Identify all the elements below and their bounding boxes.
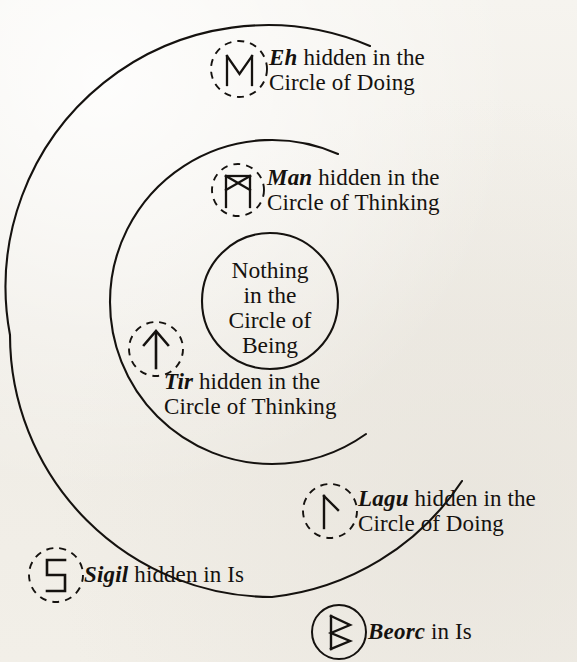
inner-circle-line-1: Nothing bbox=[190, 258, 350, 283]
annotation-beorc: Beorc in Is bbox=[368, 620, 472, 645]
annotation-man-line-2: Circle of Thinking bbox=[267, 191, 440, 216]
sigil-rune-icon bbox=[47, 560, 65, 591]
annotation-sigil-rune-name: Sigil bbox=[84, 562, 128, 587]
annotation-eh-line-2: Circle of Doing bbox=[269, 71, 425, 96]
man-rune-icon bbox=[226, 176, 250, 207]
annotation-lagu-line-1: hidden in the bbox=[409, 486, 536, 511]
lagu-rune-circle bbox=[303, 484, 357, 538]
inner-circle-line-3: Circle of bbox=[190, 308, 350, 333]
inner-circle-line-4: Being bbox=[190, 333, 350, 358]
eh-rune-circle bbox=[211, 41, 267, 97]
annotation-sigil: Sigil hidden in Is bbox=[84, 563, 244, 588]
annotation-lagu: Lagu hidden in the Circle of Doing bbox=[358, 487, 536, 536]
beorc-rune-icon bbox=[331, 616, 350, 649]
beorc-rune-circle bbox=[312, 605, 366, 659]
annotation-eh-rune-name: Eh bbox=[269, 45, 298, 70]
annotation-tir: Tir hidden in the Circle of Thinking bbox=[164, 370, 337, 419]
annotation-beorc-line-1: in Is bbox=[425, 619, 472, 644]
annotation-eh-line-1: hidden in the bbox=[298, 45, 425, 70]
annotation-man-rune-name: Man bbox=[267, 165, 312, 190]
annotation-lagu-rune-name: Lagu bbox=[358, 486, 409, 511]
annotation-man: Man hidden in the Circle of Thinking bbox=[267, 166, 440, 215]
man-rune-circle bbox=[212, 164, 264, 216]
annotation-lagu-line-2: Circle of Doing bbox=[358, 512, 536, 537]
inner-circle-text: Nothing in the Circle of Being bbox=[190, 258, 350, 358]
annotation-sigil-line-1: hidden in Is bbox=[128, 562, 244, 587]
annotation-tir-rune-name: Tir bbox=[164, 369, 193, 394]
annotation-eh: Eh hidden in the Circle of Doing bbox=[269, 46, 425, 95]
tir-rune-icon bbox=[144, 331, 168, 368]
eh-rune-icon bbox=[227, 56, 252, 85]
annotation-beorc-rune-name: Beorc bbox=[368, 619, 425, 644]
annotation-tir-line-2: Circle of Thinking bbox=[164, 395, 337, 420]
annotation-man-line-1: hidden in the bbox=[312, 165, 439, 190]
diagram-page: Nothing in the Circle of Being Eh hidden… bbox=[0, 0, 577, 662]
annotation-tir-line-1: hidden in the bbox=[193, 369, 320, 394]
inner-circle-line-2: in the bbox=[190, 283, 350, 308]
lagu-rune-icon bbox=[324, 496, 338, 528]
